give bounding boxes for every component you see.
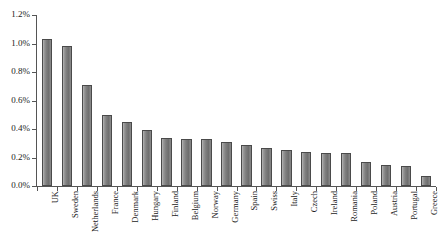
bar [201, 139, 211, 186]
y-axis-tick-mark [32, 129, 37, 130]
x-axis-tick-label-slot: Norway [202, 191, 212, 249]
bar [181, 139, 191, 186]
y-axis-tick-label: 0.6% [11, 96, 30, 105]
x-axis-tick-mark [177, 187, 178, 191]
y-axis-label-group: 1.2%1.0%0.8%0.6%0.4%0.2%0.0% [0, 0, 34, 249]
x-axis-tick-mark [336, 187, 337, 191]
y-axis-tick-mark [32, 158, 37, 159]
bar [261, 148, 271, 186]
y-axis-tick-mark [32, 72, 37, 73]
bar [42, 39, 52, 186]
x-axis-tick-label-slot: Italy [281, 191, 291, 249]
x-axis-tick-label: Netherlands [91, 191, 100, 249]
bar [62, 46, 72, 186]
y-axis-tick-label: 0.4% [11, 124, 30, 133]
bar [301, 152, 311, 186]
x-axis-tick-label-slot: Austria [381, 191, 391, 249]
x-axis-label-group: UKSwedenNetherlandsFranceDenmarkHungaryF… [37, 191, 436, 249]
y-axis-tick-mark [32, 15, 37, 16]
x-axis-tick-label: Austria [390, 191, 399, 249]
bar [122, 122, 132, 186]
bar [221, 142, 231, 186]
bar [381, 165, 391, 186]
x-axis-tick-mark [356, 187, 357, 191]
y-axis-tick-label: 1.2% [11, 10, 30, 19]
y-axis-tick-label: 0.8% [11, 67, 30, 76]
x-axis-tick-mark [117, 187, 118, 191]
x-axis-tick-label: Hungary [151, 191, 160, 249]
x-axis-tick-label: France [111, 191, 120, 249]
x-axis-tick-mark [296, 187, 297, 191]
bar [142, 130, 152, 186]
x-axis-tick-label: UK [51, 191, 60, 249]
x-axis-tick-label-slot: Romania [341, 191, 351, 249]
bar [321, 153, 331, 186]
x-axis-tick-mark [157, 187, 158, 191]
x-axis-tick-label-slot: Swiss [261, 191, 271, 249]
y-axis-tick-label: 1.0% [11, 39, 30, 48]
x-axis-tick-mark [276, 187, 277, 191]
x-axis-tick-mark [37, 187, 38, 191]
x-axis-tick-label-slot: Ireland [321, 191, 331, 249]
bar [102, 115, 112, 186]
x-axis-tick-mark [376, 187, 377, 191]
y-axis-tick-label: 0.0% [11, 181, 30, 190]
bar [161, 138, 171, 186]
x-axis-tick-label-slot: Hungary [142, 191, 152, 249]
x-axis-tick-label-slot: Greece [421, 191, 431, 249]
x-axis-tick-mark [256, 187, 257, 191]
x-axis-tick-label-slot: Belgium [182, 191, 192, 249]
x-axis-tick-mark [97, 187, 98, 191]
x-axis-tick-label: Portugal [410, 191, 419, 249]
x-axis-tick-mark [197, 187, 198, 191]
x-axis-tick-label-slot: Poland [361, 191, 371, 249]
x-axis-tick-label: Norway [211, 191, 220, 249]
y-axis-tick-mark [32, 101, 37, 102]
x-axis-tick-label: Denmark [131, 191, 140, 249]
x-axis-tick-mark [217, 187, 218, 191]
x-axis-tick-label: Spain [250, 191, 259, 249]
bar [82, 85, 92, 186]
x-axis-tick-label-slot: UK [42, 191, 52, 249]
x-axis-tick-mark [396, 187, 397, 191]
bar [421, 176, 431, 186]
x-axis-tick-label: Sweden [71, 191, 80, 249]
x-axis-tick-label-slot: Finland [162, 191, 172, 249]
x-axis-tick-mark [237, 187, 238, 191]
bar [241, 145, 251, 186]
x-axis-tick-mark [316, 187, 317, 191]
x-axis-tick-label: Italy [290, 191, 299, 249]
plot-area [37, 15, 436, 186]
x-axis-tick-label: Germany [231, 191, 240, 249]
x-axis-tick-mark [57, 187, 58, 191]
bar [281, 150, 291, 186]
x-axis-tick-label-slot: Netherlands [82, 191, 92, 249]
x-axis-tick-label: Swiss [270, 191, 279, 249]
x-axis-tick-mark [137, 187, 138, 191]
x-axis-tick-label-slot: Portugal [401, 191, 411, 249]
x-axis-tick-label: Czech [310, 191, 319, 249]
x-axis-tick-label-slot: France [102, 191, 112, 249]
y-axis-tick-label: 0.2% [11, 153, 30, 162]
x-axis-tick-mark [77, 187, 78, 191]
x-axis-tick-label-slot: Sweden [62, 191, 72, 249]
bar-chart: 1.2%1.0%0.8%0.6%0.4%0.2%0.0% UKSwedenNet… [0, 0, 438, 249]
x-axis-tick-label: Belgium [191, 191, 200, 249]
x-axis-tick-label-slot: Spain [241, 191, 251, 249]
x-axis-tick-mark [416, 187, 417, 191]
x-axis-tick-mark [436, 187, 437, 191]
x-axis-tick-label: Greece [430, 191, 438, 249]
x-axis-tick-label: Romania [350, 191, 359, 249]
x-axis-tick-label-slot: Czech [301, 191, 311, 249]
x-axis-tick-label: Ireland [330, 191, 339, 249]
x-axis-tick-label-slot: Denmark [122, 191, 132, 249]
x-axis-tick-label-slot: Germany [222, 191, 232, 249]
bar [401, 166, 411, 186]
bar [361, 162, 371, 186]
x-axis-tick-label: Poland [370, 191, 379, 249]
bar [341, 153, 351, 186]
x-axis-tick-label: Finland [171, 191, 180, 249]
y-axis-tick-mark [32, 44, 37, 45]
